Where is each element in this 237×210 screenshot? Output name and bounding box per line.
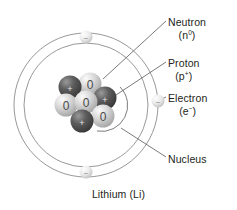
atom-diagram-figure: 0 + 0 0 + 0 + − − − Neutron (n0) Proton …: [0, 0, 237, 210]
electron-bottom-glyph: −: [84, 169, 89, 178]
label-proton-symbol: (p+): [168, 70, 200, 83]
label-neutron: Neutron (n0): [168, 16, 206, 41]
leader-line-neutron: [103, 21, 166, 79]
label-electron-symbol: (e−): [168, 105, 207, 118]
element-caption: Lithium (Li): [0, 188, 237, 201]
label-nucleus-name: Nucleus: [168, 153, 207, 165]
label-proton: Proton (p+): [168, 57, 200, 82]
particle-proton-3: [71, 110, 94, 133]
particle-neutron-4: [92, 105, 115, 128]
label-electron: Electron (e−): [168, 92, 207, 117]
label-nucleus: Nucleus: [168, 153, 207, 166]
nucleus-cluster: [55, 73, 117, 133]
leader-line-proton: [116, 62, 166, 95]
label-neutron-name: Neutron: [168, 16, 206, 28]
label-proton-name: Proton: [168, 57, 200, 69]
leader-line-nucleus: [121, 128, 166, 157]
electron-right-glyph: −: [156, 98, 161, 107]
label-neutron-symbol: (n0): [168, 29, 206, 42]
electron-top-glyph: −: [84, 34, 89, 43]
label-electron-name: Electron: [168, 92, 207, 104]
